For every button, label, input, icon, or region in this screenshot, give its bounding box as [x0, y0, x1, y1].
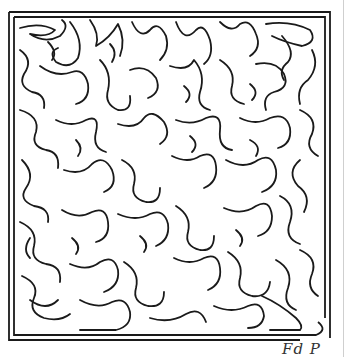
maze-page: Fd P [0, 0, 348, 357]
maze-drawing [0, 0, 348, 357]
maze-walls [20, 20, 318, 330]
artist-signature: Fd P [282, 340, 321, 357]
maze-frame [9, 12, 330, 340]
